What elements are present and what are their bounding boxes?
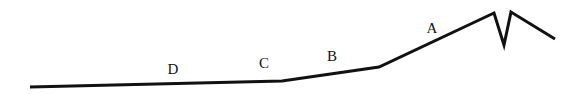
profile-diagram: D C B A (0, 0, 586, 94)
label-a: A (427, 21, 438, 36)
label-c: C (259, 56, 269, 71)
profile-line (30, 12, 555, 87)
profile-line-svg (0, 0, 586, 94)
label-b: B (327, 49, 337, 64)
label-d: D (168, 62, 179, 77)
